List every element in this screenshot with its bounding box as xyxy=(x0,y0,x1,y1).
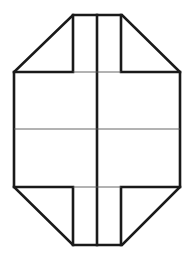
diagram-canvas xyxy=(0,0,193,259)
